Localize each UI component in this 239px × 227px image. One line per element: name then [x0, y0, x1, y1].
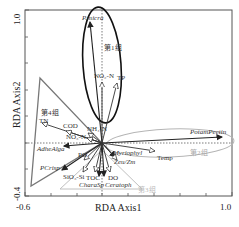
x-tick-min: -0.6: [16, 202, 31, 212]
vector-tp: [102, 83, 117, 143]
label-sio3si: SiO₃-Si: [63, 173, 85, 181]
vector-nh4n: [88, 133, 102, 143]
vector-potampectin: [102, 137, 222, 143]
rda-biplot: P.micra 第1组 NO₂-N TP 第4组 TN COD NH₄-N NO…: [0, 0, 239, 227]
label-group-3: 第3组: [138, 185, 156, 194]
label-no3n: NO₃-N: [66, 133, 86, 141]
label-tn: TN: [39, 117, 48, 125]
label-group-2: 第2组: [190, 148, 208, 157]
label-tp: TP: [117, 74, 125, 82]
label-group-1: 第1组: [104, 43, 122, 52]
label-temp: Temp: [157, 154, 173, 162]
label-group-4: 第4组: [41, 108, 59, 117]
label-nh4n: NH₄-N: [87, 125, 107, 133]
y-axis-title: RDA Axis2: [11, 82, 22, 128]
label-myriophyl: Myriophyl: [112, 149, 142, 157]
label-pcrisp: PCrisp: [39, 164, 60, 172]
label-potampectin: PotamPectin: [189, 128, 227, 136]
label-cod: COD: [63, 122, 78, 130]
label-po4: PO₄: [78, 151, 90, 159]
label-pmicra: P.micra: [81, 14, 104, 22]
vector-adhealga: [64, 143, 102, 146]
label-charasp: CharaSp: [79, 181, 104, 189]
label-ceratoph: Ceratoph: [105, 181, 132, 189]
y-tick-max: 1.0: [12, 13, 22, 25]
label-no2n: NO₂-N: [94, 72, 114, 80]
y-tick-min: -0.4: [12, 186, 22, 201]
label-adhealga: AdheAlga: [36, 145, 65, 153]
label-zeu: Zeu/Zm: [114, 158, 135, 166]
x-axis-title: RDA Axis1: [95, 202, 141, 213]
x-tick-max: 1.0: [220, 202, 232, 212]
